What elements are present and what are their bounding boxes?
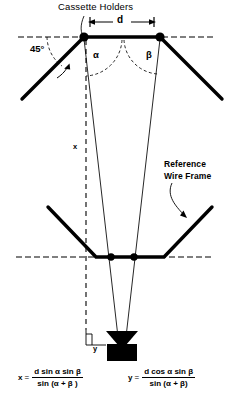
angle-beta-arc bbox=[124, 40, 158, 74]
reference-wire-frame-label-line2: Wire Frame bbox=[164, 172, 211, 182]
angle-alpha-arc bbox=[86, 40, 122, 76]
ray-right-holder-to-source bbox=[126, 39, 160, 337]
dashed-reference-lines bbox=[16, 37, 214, 330]
angle-45-pointer-arrowhead bbox=[64, 64, 70, 70]
formula-x-variable: x bbox=[18, 373, 22, 382]
cassette-right-arm bbox=[160, 37, 222, 99]
formula-x-fraction: d sin α sin β sin (α + β ) bbox=[32, 367, 83, 388]
wire-frame-right-dot bbox=[130, 253, 137, 260]
source-base-block bbox=[107, 344, 137, 361]
formula-x: x = d sin α sin β sin (α + β ) bbox=[18, 367, 83, 388]
angle-45-label: 45° bbox=[30, 44, 44, 55]
formula-x-equals: = bbox=[24, 373, 29, 382]
wire-frame-trapezoid bbox=[48, 207, 212, 257]
ray-left-holder-to-source bbox=[84, 39, 118, 337]
triangulation-rays bbox=[84, 39, 160, 337]
formula-y-denominator: sin (α + β) bbox=[148, 378, 190, 388]
formula-x-denominator: sin (α + β ) bbox=[35, 378, 79, 388]
dimension-y-group bbox=[86, 330, 106, 345]
formula-y-fraction: d cos α sin β sin (α + β) bbox=[142, 367, 195, 388]
reference-label-leader-curve bbox=[170, 183, 183, 214]
reference-wire-frame-label-line1: Reference bbox=[164, 160, 206, 170]
angle-alpha-label: α bbox=[93, 50, 99, 61]
angle-alpha-group bbox=[86, 40, 122, 76]
formula-y-equals: = bbox=[134, 373, 139, 382]
angle-beta-label: β bbox=[146, 50, 152, 61]
dimension-d-label: d bbox=[117, 14, 123, 25]
formula-y: y = d cos α sin β sin (α + β) bbox=[128, 367, 195, 388]
dimension-y-label: y bbox=[93, 345, 97, 353]
dimension-d-right-arrowhead bbox=[149, 19, 156, 25]
source-detector-icon bbox=[106, 331, 138, 361]
diagram-canvas: Cassette Holders d 45° α β x Reference W… bbox=[0, 0, 231, 404]
formula-x-numerator: d sin α sin β bbox=[32, 367, 83, 377]
dimension-d-left-arrowhead bbox=[88, 19, 95, 25]
dimension-x-label: x bbox=[73, 143, 77, 151]
technical-diagram-svg bbox=[0, 0, 231, 404]
angle-beta-group bbox=[124, 40, 158, 74]
reference-wire-frame-shape bbox=[48, 207, 212, 261]
page-title: Cassette Holders bbox=[58, 2, 133, 13]
reference-label-leader-group bbox=[170, 183, 187, 218]
formula-y-variable: y bbox=[128, 373, 132, 382]
formula-y-numerator: d cos α sin β bbox=[142, 367, 195, 377]
source-funnel-shape bbox=[106, 331, 138, 345]
